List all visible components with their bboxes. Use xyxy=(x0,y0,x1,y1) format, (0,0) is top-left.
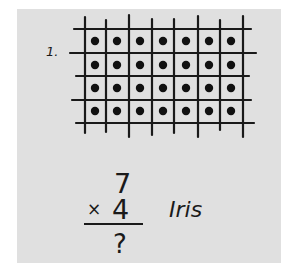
array-dot xyxy=(227,84,235,92)
array-dot xyxy=(91,107,99,115)
times-operator: × xyxy=(87,199,101,219)
array-dot xyxy=(205,84,213,92)
array-dot xyxy=(227,37,235,45)
array-dot xyxy=(205,37,213,45)
array-dot xyxy=(113,37,121,45)
array-dot xyxy=(136,61,144,69)
array-dot xyxy=(182,37,190,45)
array-dot xyxy=(91,84,99,92)
array-dot xyxy=(91,61,99,69)
array-dot xyxy=(182,61,190,69)
multiplication-problem: 7 × 4 ? xyxy=(84,168,143,259)
array-dot xyxy=(205,61,213,69)
array-dot xyxy=(205,107,213,115)
array-dot xyxy=(159,61,167,69)
array-grid xyxy=(70,15,256,137)
problem-number: 1. xyxy=(46,44,58,59)
array-dot xyxy=(136,84,144,92)
answer-placeholder: ? xyxy=(113,229,127,259)
array-dot xyxy=(113,84,121,92)
array-dot xyxy=(136,107,144,115)
array-dot xyxy=(113,107,121,115)
array-dot xyxy=(182,84,190,92)
array-dot xyxy=(113,61,121,69)
array-dot xyxy=(227,61,235,69)
array-dot xyxy=(136,37,144,45)
array-dot xyxy=(182,107,190,115)
worksheet-drawing: 1. 7 × 4 ? Iris xyxy=(0,0,294,277)
multiplier: 4 xyxy=(112,194,129,225)
array-dot xyxy=(159,84,167,92)
student-name: Iris xyxy=(169,197,202,222)
array-dot xyxy=(159,107,167,115)
array-dot xyxy=(227,107,235,115)
array-dot xyxy=(159,37,167,45)
array-dot xyxy=(91,37,99,45)
